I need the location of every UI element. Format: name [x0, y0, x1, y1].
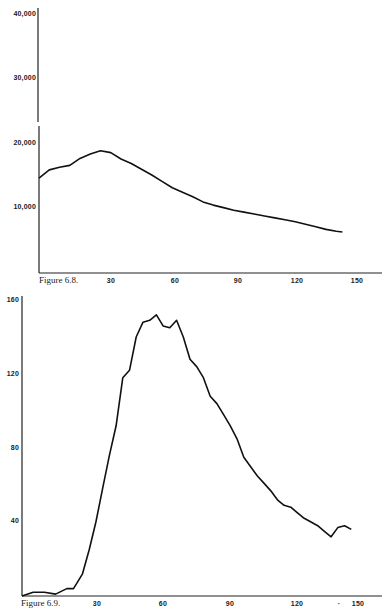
x-tick-150: 150: [343, 600, 373, 607]
x-tick-90: 90: [215, 600, 245, 607]
figure-6-9-caption: Figure 6.9.: [21, 598, 60, 608]
figure-6-9-plot: [0, 288, 386, 613]
y-tick-160: 160: [0, 296, 19, 303]
x-tick-150: 150: [342, 277, 372, 284]
y-tick-40000: 40,000: [2, 10, 36, 17]
figure-6-9-line: [22, 315, 351, 596]
x-tick-30: 30: [82, 600, 112, 607]
x-tick-90: 90: [223, 277, 253, 284]
figure-6-9-chart: 160 120 80 40 Figure 6.9. 30 60 90 120 ·…: [0, 288, 386, 613]
y-tick-20000: 20,000: [2, 139, 36, 146]
y-tick-80: 80: [0, 444, 19, 451]
figure-6-8-line: [39, 151, 342, 232]
y-tick-30000: 30,000: [2, 74, 36, 81]
x-tick-120: 120: [282, 600, 312, 607]
x-tick-120: 120: [282, 277, 312, 284]
figure-6-8-plot: [0, 0, 386, 288]
figure-6-8-caption: Figure 6.8.: [39, 275, 78, 285]
x-tick-60: 60: [160, 277, 190, 284]
y-tick-40: 40: [0, 517, 19, 524]
figure-6-8-chart: 40,000 30,000 20,000 10,000 Figure 6.8. …: [0, 0, 386, 288]
y-tick-10000: 10,000: [2, 203, 36, 210]
x-tick-30: 30: [96, 277, 126, 284]
x-tick-60: 60: [148, 600, 178, 607]
y-tick-120: 120: [0, 370, 19, 377]
